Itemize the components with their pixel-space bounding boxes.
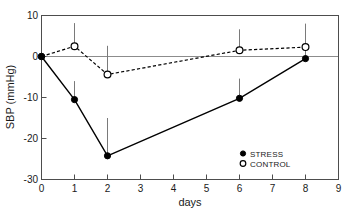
data-point-stress [38,53,45,60]
y-tick-label: -30 [24,174,39,185]
y-tick-label: 0 [32,51,38,62]
x-tick-labels: 0 1 2 3 4 5 6 7 8 9 [39,183,342,194]
chart-svg: 10 0 -10 -20 -30 0 1 2 3 4 5 6 [0,0,351,210]
x-axis-title: days [178,196,202,208]
legend-label-stress: STRESS [250,150,283,159]
y-axis-title: SBP (mmHg) [4,65,16,130]
data-point-control [236,47,243,54]
x-tick-label: 1 [72,183,78,194]
data-point-stress [236,95,242,101]
data-point-stress [104,153,110,159]
x-tick-label: 8 [303,183,309,194]
data-point-control [104,71,111,78]
chart-figure: 10 0 -10 -20 -30 0 1 2 3 4 5 6 [0,0,351,210]
y-tick-labels: 10 0 -10 -20 -30 [24,10,39,185]
x-tick-label: 5 [204,183,210,194]
x-tick-marks [42,175,339,180]
series-line-stress [42,57,306,156]
x-tick-label: 6 [237,183,243,194]
data-point-control [302,44,309,51]
error-bars-stress [75,24,306,156]
x-tick-label: 4 [171,183,177,194]
legend-label-control: CONTROL [250,160,291,169]
data-point-stress [71,97,77,103]
x-tick-label: 2 [105,183,111,194]
x-tick-label: 9 [336,183,342,194]
series-line-control [42,46,306,74]
y-tick-marks [42,16,47,180]
y-tick-label: -20 [24,133,39,144]
legend-marker-stress [240,151,245,156]
data-point-stress [302,56,308,62]
y-tick-label: -10 [24,92,39,103]
x-tick-label: 7 [270,183,276,194]
y-tick-label: 10 [27,10,39,21]
x-tick-label: 3 [138,183,144,194]
plot-frame [42,16,339,180]
data-point-control [71,43,78,50]
legend-marker-control [240,161,246,167]
chart-legend: STRESS CONTROL [240,150,291,169]
x-tick-label: 0 [39,183,45,194]
